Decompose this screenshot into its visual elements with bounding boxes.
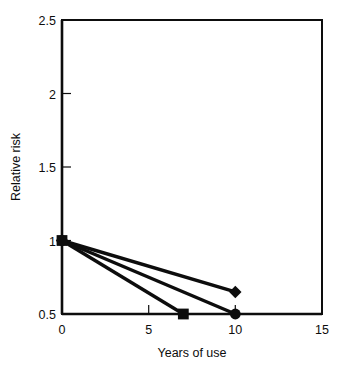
x-tick-label-10: 10 — [228, 323, 242, 337]
marker-circle — [230, 309, 241, 320]
x-tick-label-15: 15 — [315, 323, 329, 337]
y-axis-title-text: Relative risk — [9, 132, 23, 201]
chart-canvas: 2.5 2 1.5 1 0.5 0 5 10 15 Years of use R… — [0, 0, 353, 372]
marker-square — [178, 309, 189, 320]
x-axis-title: Years of use — [157, 346, 226, 360]
y-tick-label-2-5: 2.5 — [39, 14, 56, 28]
marker-square — [57, 235, 68, 246]
y-tick-label-2: 2 — [49, 88, 56, 102]
y-tick-label-0-5: 0.5 — [39, 308, 56, 322]
y-tick-label-1: 1 — [49, 235, 56, 249]
y-tick-label-1-5: 1.5 — [39, 161, 56, 175]
plot-area-background — [62, 20, 322, 314]
x-tick-label-5: 5 — [145, 323, 152, 337]
chart-figure: 2.5 2 1.5 1 0.5 0 5 10 15 Years of use R… — [0, 0, 353, 372]
x-tick-label-0: 0 — [59, 323, 66, 337]
